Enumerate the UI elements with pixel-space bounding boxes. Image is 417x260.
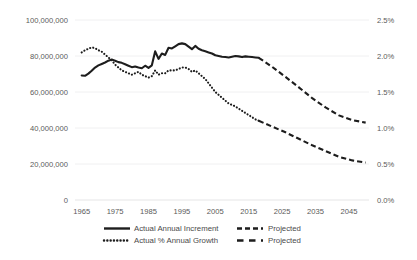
x-axis-tick-label: 1975 (107, 207, 124, 216)
right-axis-tick-labels: 0.0%0.5%1.0%1.5%2.0%2.5% (377, 16, 395, 205)
chart-container: 020,000,00040,000,00060,000,00080,000,00… (0, 0, 417, 260)
legend-label: Projected (268, 236, 301, 245)
legend-label: Actual % Annual Growth (134, 236, 218, 245)
legend-label: Actual Annual Increment (134, 224, 219, 233)
left-axis-tick-label: 60,000,000 (30, 88, 68, 97)
right-axis-tick-label: 1.0% (377, 124, 395, 133)
right-axis-tick-label: 2.0% (377, 52, 395, 61)
gridlines (75, 20, 369, 200)
left-axis-tick-labels: 020,000,00040,000,00060,000,00080,000,00… (26, 16, 68, 205)
series-layer (82, 43, 366, 162)
x-axis-tick-label: 1985 (140, 207, 157, 216)
x-axis-tick-labels: 196519751985199520052015202520352045 (73, 207, 357, 216)
left-axis-tick-label: 80,000,000 (30, 52, 68, 61)
x-axis-tick-label: 2025 (274, 207, 291, 216)
left-axis-tick-label: 0 (64, 196, 68, 205)
series-line (82, 47, 259, 120)
x-axis-tick-label: 1995 (173, 207, 190, 216)
left-axis-tick-label: 40,000,000 (30, 124, 68, 133)
x-axis-tick-label: 2035 (307, 207, 324, 216)
x-axis-tick-label: 2015 (240, 207, 257, 216)
left-axis-tick-label: 100,000,000 (26, 16, 68, 25)
left-axis-tick-label: 20,000,000 (30, 160, 68, 169)
legend-label: Projected (268, 224, 301, 233)
x-axis-tick-label: 2005 (207, 207, 224, 216)
chart-legend: Actual Annual IncrementProjectedActual %… (104, 224, 301, 245)
series-line (259, 58, 366, 123)
right-axis-tick-label: 1.5% (377, 88, 395, 97)
right-axis-tick-label: 0.5% (377, 160, 395, 169)
line-chart: 020,000,00040,000,00060,000,00080,000,00… (0, 0, 417, 260)
x-axis-tick-label: 2045 (341, 207, 358, 216)
series-line (259, 121, 366, 163)
right-axis-tick-label: 0.0% (377, 196, 395, 205)
x-axis-tick-label: 1965 (73, 207, 90, 216)
right-axis-tick-label: 2.5% (377, 16, 395, 25)
